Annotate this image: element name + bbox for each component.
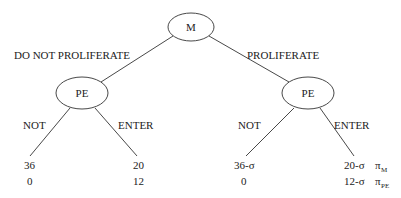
legend-pi-m-subscript: M bbox=[381, 166, 388, 174]
action-right-not: NOT bbox=[238, 119, 261, 131]
node-pe-left: PE bbox=[56, 77, 108, 109]
node-m: M bbox=[168, 13, 214, 41]
payoff-rr-m: 20-σ bbox=[344, 159, 365, 171]
legend-pi-pe-subscript: PE bbox=[381, 182, 389, 190]
edge-left-not bbox=[30, 108, 70, 156]
node-m-label: M bbox=[186, 21, 196, 33]
payoff-lr-m: 20 bbox=[133, 159, 145, 171]
legend-pi-m: π M bbox=[375, 159, 388, 174]
payoff-rl-m: 36-σ bbox=[234, 159, 255, 171]
legend-pi-pe: π PE bbox=[375, 175, 389, 190]
node-pe-right: PE bbox=[282, 77, 334, 109]
edge-left-enter bbox=[95, 108, 137, 156]
action-left-enter: ENTER bbox=[118, 119, 154, 131]
game-tree: M PE PE DO NOT PROLIFERATE PROLIFERATE N… bbox=[0, 0, 401, 198]
payoff-ll-pe: 0 bbox=[27, 175, 33, 187]
payoff-rl-pe: 0 bbox=[241, 175, 247, 187]
payoff-rr-pe: 12-σ bbox=[344, 175, 365, 187]
node-pe-left-label: PE bbox=[76, 87, 89, 99]
action-proliferate: PROLIFERATE bbox=[247, 49, 319, 61]
edge-right-enter bbox=[320, 108, 354, 156]
payoff-lr-pe: 12 bbox=[133, 175, 144, 187]
payoff-ll-m: 36 bbox=[24, 159, 36, 171]
action-left-not: NOT bbox=[23, 119, 46, 131]
action-right-enter: ENTER bbox=[334, 119, 370, 131]
edge-right-not bbox=[246, 108, 294, 156]
action-do-not-proliferate: DO NOT PROLIFERATE bbox=[14, 49, 130, 61]
node-pe-right-label: PE bbox=[302, 87, 315, 99]
